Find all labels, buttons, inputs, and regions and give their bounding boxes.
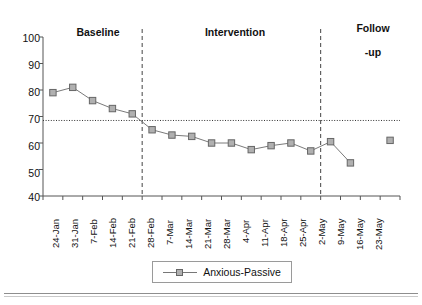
legend-label-anxious-passive: Anxious-Passive [203,266,281,278]
data-point-marker [327,138,333,144]
data-point-marker [109,105,115,111]
data-point-marker [208,140,214,146]
legend-square-icon [176,269,183,276]
data-point-marker [268,142,274,148]
chart-container: Baseline Intervention Follow -up 100 90 … [0,0,422,305]
data-point-marker [248,146,254,152]
chart-legend: Anxious-Passive [152,261,292,283]
footer-rule-secondary [4,296,418,297]
series-line-0 [53,87,351,163]
footer-rule [4,293,418,294]
data-point-marker [50,89,56,95]
data-point-marker [70,84,76,90]
data-point-marker [129,111,135,117]
data-point-marker [149,127,155,133]
data-point-marker [387,137,393,143]
data-point-marker [89,97,95,103]
data-point-marker [308,148,314,154]
legend-marker-anxious-passive [163,267,197,277]
data-point-marker [189,133,195,139]
data-point-marker [288,140,294,146]
data-point-marker [169,132,175,138]
data-point-marker [228,140,234,146]
data-point-marker [347,160,353,166]
plot-area [0,0,422,305]
